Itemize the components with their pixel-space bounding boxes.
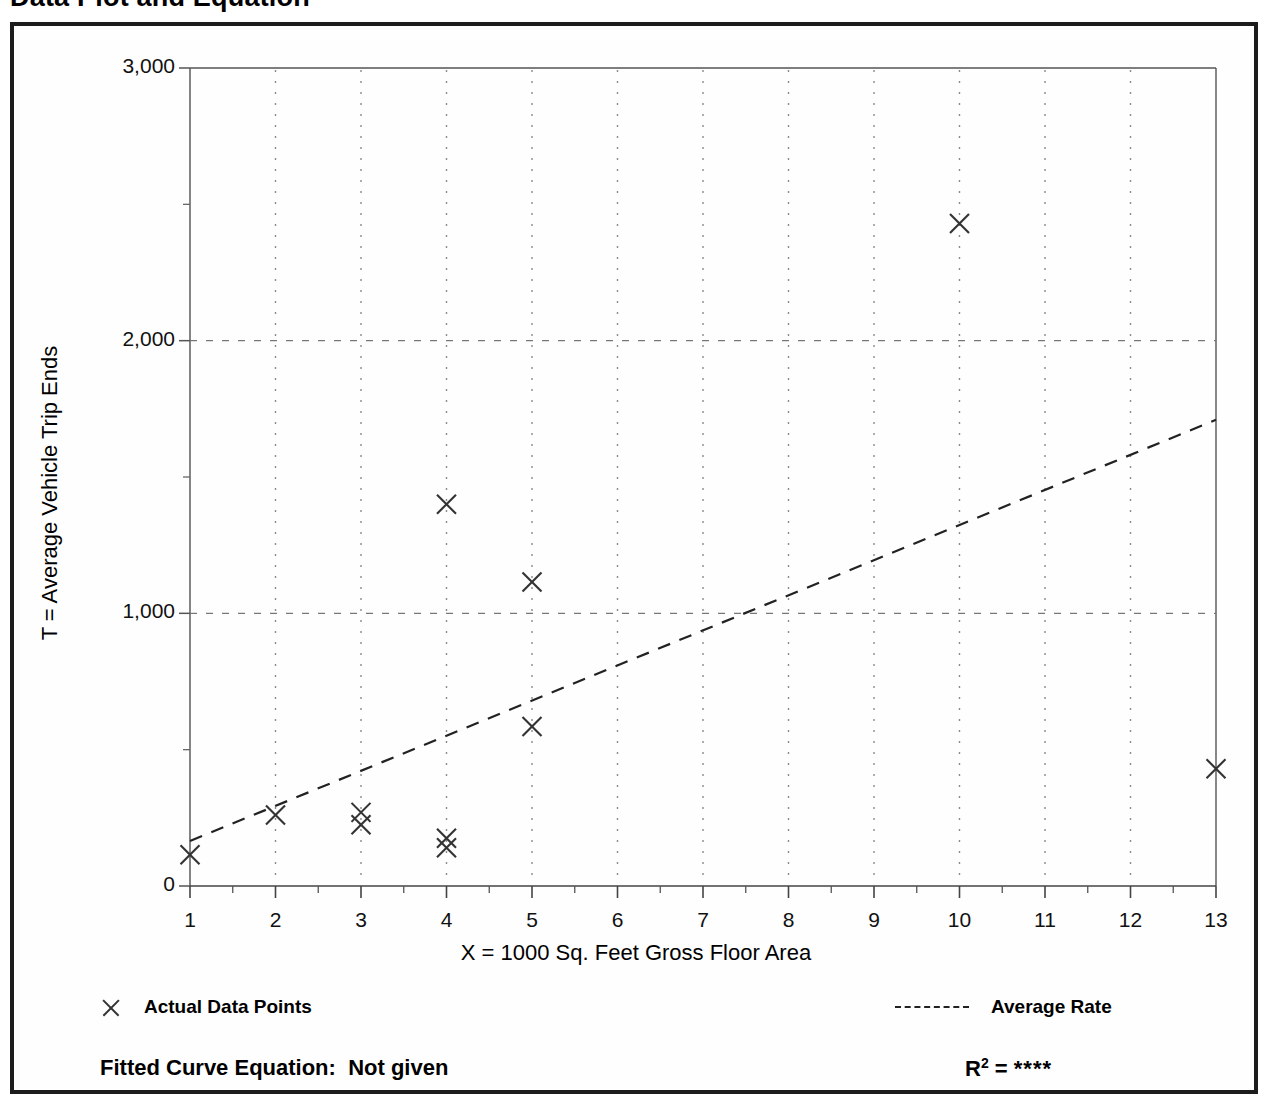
x-tick-label: 11 [1015,908,1075,932]
x-tick-label: 7 [673,908,733,932]
r2-exponent: 2 [981,1055,989,1071]
x-tick-label: 13 [1186,908,1246,932]
x-tick-label: 6 [588,908,648,932]
x-tick-label: 8 [759,908,819,932]
x-tick-label: 9 [844,908,904,932]
page-title: Data Plot and Equation [10,0,310,13]
legend-item-average-rate: Average Rate [895,996,1112,1018]
r2-label: R [965,1056,981,1081]
x-marker-icon [100,996,122,1018]
legend-item-actual-data-points: Actual Data Points [100,996,312,1018]
r2-equals: = [995,1056,1008,1081]
x-tick-label: 1 [160,908,220,932]
equation-label: Fitted Curve Equation: [100,1055,336,1080]
x-tick-label: 5 [502,908,562,932]
fitted-curve-equation: Fitted Curve Equation: Not given [100,1055,448,1081]
x-tick-label: 12 [1101,908,1161,932]
legend-label-actual-data-points: Actual Data Points [144,996,312,1018]
legend-label-average-rate: Average Rate [991,996,1112,1018]
x-tick-label: 3 [331,908,391,932]
x-tick-label: 4 [417,908,477,932]
x-tick-label: 2 [246,908,306,932]
y-tick-label: 3,000 [40,54,175,78]
r2-stars: **** [1014,1056,1052,1081]
x-tick-label: 10 [930,908,990,932]
chart-panel [10,22,1258,1094]
r-squared-value: R2 = **** [965,1055,1052,1082]
y-tick-label: 0 [40,872,175,896]
equation-value: Not given [348,1055,448,1080]
y-axis-title: T = Average Vehicle Trip Ends [37,283,63,703]
dashed-line-icon [895,1006,969,1008]
x-axis-title: X = 1000 Sq. Feet Gross Floor Area [0,940,1272,966]
